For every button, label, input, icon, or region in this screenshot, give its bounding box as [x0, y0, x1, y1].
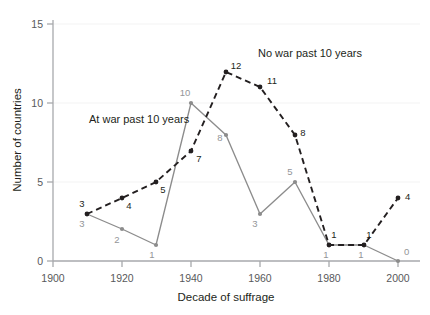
y-tick-label-10: 10 [31, 97, 43, 109]
at-war-point-1950 [224, 133, 228, 137]
no-war-markers [85, 70, 401, 248]
x-tick-label-2000: 2000 [386, 272, 410, 284]
at-war-point-1970 [293, 180, 297, 184]
at-war-point-2000 [396, 259, 400, 263]
at-war-point-1930 [154, 243, 158, 247]
x-axis-title: Decade of suffrage [178, 291, 275, 303]
series-no-war: 3 4 5 7 12 11 8 1 1 4 [79, 60, 410, 247]
at-war-label-1990: 1 [358, 249, 363, 260]
no-war-point-1950 [224, 70, 229, 75]
no-war-point-1980 [327, 243, 332, 248]
x-tick-label-1960: 1960 [248, 272, 272, 284]
at-war-label-2000: 0 [404, 246, 409, 257]
y-tick-labels: 15 10 5 0 [31, 18, 43, 267]
at-war-label-1970: 5 [287, 166, 292, 177]
no-war-point-1970 [293, 133, 298, 138]
no-war-point-1960 [258, 85, 263, 90]
no-war-label-1990: 1 [366, 229, 371, 240]
at-war-point-1940 [189, 101, 193, 105]
at-war-point-1960 [258, 212, 262, 216]
no-war-point-1920 [120, 196, 125, 201]
at-war-point-1920 [120, 227, 124, 231]
y-axis-title: Number of countries [11, 88, 23, 192]
legend-no-war-label: No war past 10 years [258, 47, 362, 59]
no-war-point-1930 [154, 180, 159, 185]
no-war-label-1940: 7 [196, 153, 201, 164]
x-tick-label-1940: 1940 [179, 272, 203, 284]
y-tick-label-5: 5 [37, 176, 43, 188]
x-tick-label-1900: 1900 [41, 272, 65, 284]
no-war-point-labels: 3 4 5 7 12 11 8 1 1 4 [79, 60, 410, 240]
x-tick-labels: 1900 1920 1940 1960 1980 2000 [41, 272, 410, 284]
no-war-label-1960: 11 [267, 75, 277, 86]
no-war-point-1940 [189, 149, 194, 154]
axis-lines [47, 20, 420, 267]
no-war-line [87, 72, 398, 245]
legend-at-war-label: At war past 10 years [89, 113, 190, 125]
at-war-label-1920: 2 [114, 234, 119, 245]
no-war-label-1970: 8 [300, 127, 305, 138]
no-war-point-2000 [396, 196, 401, 201]
no-war-label-1930: 5 [160, 184, 165, 195]
line-chart-canvas: 15 10 5 0 1900 1920 1940 1960 1980 2000 … [0, 0, 430, 315]
no-war-label-2000: 4 [405, 191, 410, 202]
at-war-label-1940: 10 [180, 87, 191, 98]
no-war-label-1910: 3 [79, 198, 84, 209]
no-war-label-1950: 12 [231, 60, 242, 71]
no-war-label-1980: 1 [331, 229, 336, 240]
at-war-label-1930: 1 [149, 249, 154, 260]
no-war-label-1920: 4 [126, 200, 131, 211]
at-war-label-1960: 3 [252, 218, 257, 229]
no-war-point-1910 [85, 212, 90, 217]
y-tick-label-0: 0 [37, 255, 43, 267]
at-war-label-1950: 8 [217, 132, 222, 143]
chart-figure: 15 10 5 0 1900 1920 1940 1960 1980 2000 … [0, 0, 430, 315]
at-war-label-1980: 1 [323, 249, 328, 260]
at-war-label-1910: 3 [79, 218, 84, 229]
x-tick-label-1980: 1980 [317, 272, 341, 284]
y-tick-label-15: 15 [31, 18, 43, 30]
no-war-point-1990 [362, 243, 367, 248]
x-tick-label-1920: 1920 [110, 272, 134, 284]
